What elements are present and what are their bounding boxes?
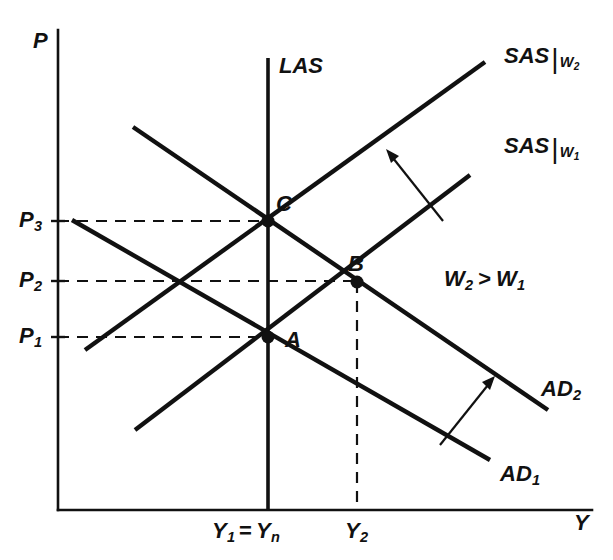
- curve-label-sas-w2: SAS|W2: [504, 45, 579, 73]
- y-tick-label-p3-sub: 3: [34, 218, 42, 234]
- x-tick-label-y1-main: Y: [212, 518, 227, 543]
- curve-sas-w1: [135, 175, 470, 430]
- curve-label-sas-w1: SAS|W1: [504, 135, 579, 163]
- annotation-wage-inequality: W2>W1: [444, 268, 525, 293]
- curve-label-sas-w1-main: SAS: [504, 133, 549, 158]
- y-axis-label: P: [33, 30, 48, 52]
- point-label-c: C: [276, 193, 292, 215]
- wage-left-main: W: [444, 266, 465, 291]
- wage-left-sub: 2: [465, 277, 473, 293]
- y-tick-label-p2: P2: [19, 269, 42, 294]
- as-ad-diagram: P Y P3 P2 P1 Y1=Yn Y2 LAS SAS|W2 SAS|W1 …: [0, 0, 613, 560]
- wage-right-sub: 1: [517, 277, 525, 293]
- curve-label-las: LAS: [279, 55, 323, 77]
- curve-label-sas-w1-bar: |: [551, 135, 558, 163]
- arrow-sas-shift-icon: [386, 149, 443, 221]
- x-tick-label-yn-main: Y: [256, 518, 271, 543]
- curve-label-ad2-sub: 2: [573, 387, 581, 403]
- y-tick-label-p3: P3: [19, 209, 42, 234]
- x-tick-label-y2: Y2: [345, 520, 368, 545]
- y-tick-label-p1-main: P: [19, 323, 34, 348]
- curve-label-sas-w2-sub: W: [560, 54, 574, 70]
- curve-label-sas-w2-main: SAS: [504, 43, 549, 68]
- curve-ad1: [72, 220, 490, 460]
- x-tick-label-yn-sub: n: [271, 529, 280, 545]
- curve-label-ad1: AD1: [500, 463, 540, 488]
- x-tick-label-y1-sub: 1: [227, 529, 235, 545]
- point-marker-a: [262, 331, 275, 344]
- y-tick-label-p1: P1: [19, 325, 42, 350]
- x-tick-label-y2-sub: 2: [360, 529, 368, 545]
- point-marker-c: [262, 215, 275, 228]
- curve-label-ad2-main: AD: [541, 376, 573, 401]
- curve-label-ad2: AD2: [541, 378, 581, 403]
- curve-label-sas-w2-index: 2: [574, 61, 580, 72]
- arrow-ad-shift-icon: [440, 376, 495, 445]
- curve-label-sas-w2-bar: |: [551, 45, 558, 73]
- x-tick-label-y1-yn: Y1=Yn: [212, 520, 280, 545]
- curve-label-ad1-main: AD: [500, 461, 532, 486]
- x-axis-label: Y: [574, 512, 589, 534]
- y-tick-label-p1-sub: 1: [34, 334, 42, 350]
- wage-operator: >: [478, 266, 491, 291]
- curve-label-sas-w1-index: 1: [574, 151, 580, 162]
- point-marker-b: [351, 276, 364, 289]
- x-tick-label-equals: =: [239, 518, 252, 543]
- y-tick-label-p2-main: P: [19, 267, 34, 292]
- point-label-b: B: [348, 253, 364, 275]
- wage-right-main: W: [496, 266, 517, 291]
- curve-label-ad1-sub: 1: [532, 472, 540, 488]
- y-tick-label-p2-sub: 2: [34, 278, 42, 294]
- x-tick-label-y2-main: Y: [345, 518, 360, 543]
- curve-label-sas-w1-sub: W: [560, 144, 574, 160]
- y-tick-label-p3-main: P: [19, 207, 34, 232]
- point-label-a: A: [285, 329, 301, 351]
